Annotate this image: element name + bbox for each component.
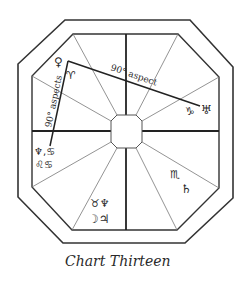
capricorn-glyph: ♑ <box>185 105 195 118</box>
scorpio-glyph: ♏ <box>170 168 180 181</box>
taurus-neptune-glyphs: ♉♆ <box>90 197 110 210</box>
neptune-cancer-glyphs: ♆,♋ <box>34 146 55 157</box>
venus-glyph: ♀ <box>54 55 63 69</box>
uranus-glyph: ♅ <box>201 103 212 117</box>
moon-jupiter-glyphs: ☽♃ <box>88 212 110 226</box>
astrology-chart: 90° aspect 90° aspects ♀ ♈ ♑ ♅ ♆,♋ ♌♋ ♉♆… <box>0 0 248 281</box>
aries-glyph: ♈ <box>66 69 76 82</box>
leo-cancer-glyphs: ♌♋ <box>35 159 53 170</box>
aspect-line-top <box>68 61 200 106</box>
chart-caption: Chart Thirteen <box>65 253 171 269</box>
aspect-label-left: 90° aspects <box>43 74 64 128</box>
center-octagon <box>111 115 142 148</box>
saturn-glyph: ♄ <box>181 182 192 196</box>
